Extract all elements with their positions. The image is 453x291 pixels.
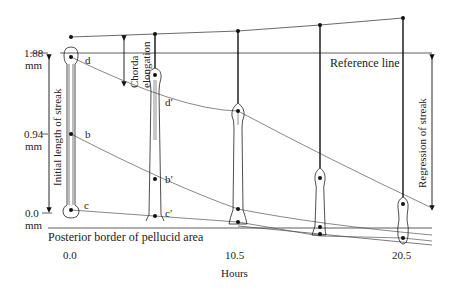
chorda-elongation-label-1: Chorda (129, 56, 140, 88)
point-label-d-prime: d′ (165, 97, 173, 108)
chorda-tip-line (71, 18, 403, 37)
streak-10-5h (229, 29, 247, 224)
point-label-b: b (85, 129, 91, 140)
chorda-elongation-label-2: elongation (141, 42, 152, 88)
point-label-b-prime: b′ (165, 174, 173, 185)
posterior-border-label: Posterior border of pellucid area (48, 232, 203, 243)
streak-stage-4 (312, 23, 326, 236)
y-tick-0-0: 0.0 (25, 208, 39, 219)
reference-line-label: Reference line (330, 58, 400, 69)
x-axis-title: Hours (221, 268, 248, 279)
streak-regression-diagram (0, 0, 453, 291)
d-curve (71, 57, 432, 208)
point-label-d: d (85, 55, 91, 66)
x-tick-0-0: 0.0 (63, 250, 77, 261)
y-tick-0-0-unit: mm (25, 220, 42, 231)
y-tick-0-94-unit: mm (25, 141, 42, 152)
y-tick-1-88-unit: mm (25, 60, 42, 71)
b-curve (71, 134, 432, 235)
x-tick-20-5: 20.5 (392, 250, 411, 261)
x-tick-10-5: 10.5 (225, 250, 244, 261)
point-label-c-prime: c′ (165, 208, 172, 219)
streak-20-5h (398, 16, 409, 244)
y-tick-1-88: 1.88 (24, 48, 43, 59)
regression-label: Regression of streak (417, 98, 428, 188)
y-axis-title: Initial length of streak (52, 89, 63, 186)
y-tick-0-94: 0.94 (24, 129, 43, 140)
point-label-c: c (84, 200, 89, 211)
streak-0h (63, 35, 79, 218)
posterior-border-lower-line (238, 226, 432, 245)
